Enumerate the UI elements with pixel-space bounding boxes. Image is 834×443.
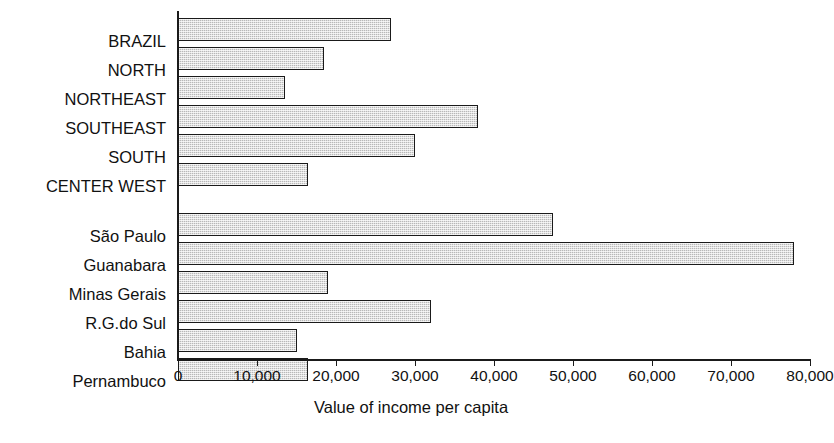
bar-northeast xyxy=(178,76,285,99)
bar-sao-paulo xyxy=(178,213,553,236)
bar-south xyxy=(178,134,415,157)
x-tick-label-10000: 10,000 xyxy=(233,368,280,384)
bar-southeast xyxy=(178,105,478,128)
x-tick-40000 xyxy=(494,359,495,366)
bar-bahia xyxy=(178,329,297,352)
x-tick-label-0: 0 xyxy=(174,368,183,384)
category-label-sao-paulo: São Paulo xyxy=(0,228,166,245)
x-tick-label-30000: 30,000 xyxy=(391,368,438,384)
x-axis-title: Value of income per capita xyxy=(0,399,822,416)
bar-minas-gerais xyxy=(178,271,328,294)
bar-north xyxy=(178,47,324,70)
category-label-rg-do-sul: R.G.do Sul xyxy=(0,315,166,332)
plot-area xyxy=(178,12,810,360)
x-tick-80000 xyxy=(810,359,811,366)
y-axis-line xyxy=(177,11,179,361)
x-tick-10000 xyxy=(257,359,258,366)
x-tick-60000 xyxy=(652,359,653,366)
category-label-southeast: SOUTHEAST xyxy=(0,120,166,137)
category-label-minas-gerais: Minas Gerais xyxy=(0,286,166,303)
x-tick-label-50000: 50,000 xyxy=(549,368,596,384)
category-label-guanabara: Guanabara xyxy=(0,257,166,274)
x-tick-50000 xyxy=(573,359,574,366)
x-tick-30000 xyxy=(415,359,416,366)
x-tick-label-40000: 40,000 xyxy=(470,368,517,384)
x-tick-70000 xyxy=(731,359,732,366)
bar-rg-do-sul xyxy=(178,300,431,323)
x-tick-label-80000: 80,000 xyxy=(786,368,833,384)
category-label-north: NORTH xyxy=(0,62,166,79)
bar-brazil xyxy=(178,18,391,41)
category-label-center-west: CENTER WEST xyxy=(0,178,166,195)
bar-guanabara xyxy=(178,242,794,265)
category-label-pernambuco: Pernambuco xyxy=(0,373,166,390)
category-label-bahia: Bahia xyxy=(0,344,166,361)
category-label-column: BRAZIL NORTH NORTHEAST SOUTHEAST SOUTH C… xyxy=(0,0,172,360)
x-tick-label-60000: 60,000 xyxy=(628,368,675,384)
x-tick-label-20000: 20,000 xyxy=(312,368,359,384)
category-label-brazil: BRAZIL xyxy=(0,33,166,50)
category-label-south: SOUTH xyxy=(0,149,166,166)
x-tick-0 xyxy=(178,359,179,366)
bar-center-west xyxy=(178,163,308,186)
x-tick-20000 xyxy=(336,359,337,366)
category-label-northeast: NORTHEAST xyxy=(0,91,166,108)
x-tick-label-70000: 70,000 xyxy=(707,368,754,384)
